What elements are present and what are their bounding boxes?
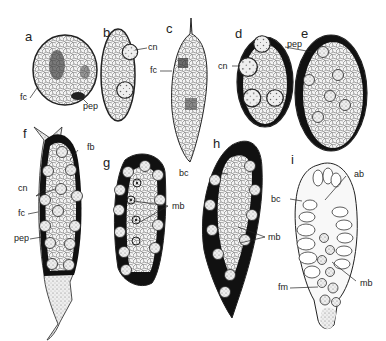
annotation-cn: cn (148, 43, 158, 52)
panel-b (101, 29, 147, 121)
panel-label-c: c (166, 22, 173, 35)
annotation-fc: fc (20, 93, 27, 102)
figure: a b c d e f g h i fc pep cn fc pep cn fb… (0, 0, 386, 341)
panel-label-g: g (103, 156, 110, 169)
annotation-mb: mb (268, 233, 281, 242)
panel-label-e: e (301, 27, 308, 40)
panel-e (285, 35, 367, 151)
annotation-ab: ab (354, 170, 364, 179)
annotation-bc: bc (271, 195, 281, 204)
annotation-mb: mb (172, 202, 185, 211)
annotation-fc: fc (150, 66, 157, 75)
annotation-cn: cn (18, 184, 28, 193)
panel-label-i: i (291, 153, 294, 166)
annotation-bc: bc (179, 169, 189, 178)
panel-i (290, 163, 357, 329)
annotation-mb: mb (360, 279, 373, 288)
panel-d (232, 36, 293, 127)
annotation-fc: fc (18, 209, 25, 218)
panel-label-h: h (213, 137, 220, 150)
panel-label-b: b (103, 26, 110, 39)
panel-label-f: f (23, 127, 27, 140)
annotation-fb: fb (87, 143, 95, 152)
panel-f (28, 127, 83, 340)
annotation-cn: cn (218, 62, 228, 71)
illustration (0, 0, 386, 341)
panel-a (30, 35, 97, 105)
annotation-pep: pep (287, 40, 302, 49)
annotation-fm: fm (278, 283, 288, 292)
annotation-pep: pep (83, 102, 98, 111)
panel-c (160, 18, 207, 162)
panel-g (114, 154, 169, 286)
panel-label-d: d (235, 27, 242, 40)
panel-label-a: a (25, 30, 32, 43)
panel-h (202, 141, 265, 318)
annotation-pep: pep (14, 234, 29, 243)
